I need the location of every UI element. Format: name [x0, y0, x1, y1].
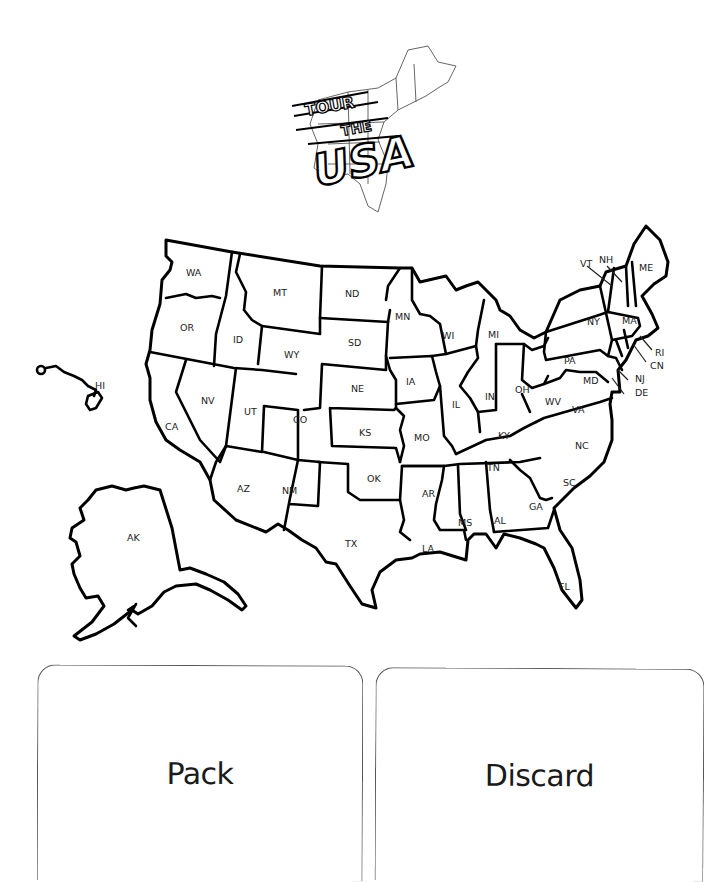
label-ut: UT	[244, 406, 257, 417]
label-la: LA	[422, 543, 435, 554]
label-ia: IA	[406, 376, 416, 387]
label-ar: AR	[422, 488, 435, 499]
label-il: IL	[452, 399, 461, 410]
logo-text-usa: USA	[313, 125, 415, 198]
label-mt: MT	[273, 287, 287, 298]
contiguous-us-outline	[146, 226, 668, 608]
tour-the-usa-logo: TOUR THE USA	[288, 44, 458, 216]
logo-text-tour: TOUR	[303, 93, 355, 120]
alaska	[70, 486, 246, 640]
hawaii	[37, 366, 102, 410]
label-mi: MI	[488, 329, 499, 340]
label-tx: TX	[344, 538, 358, 549]
label-or: OR	[180, 322, 194, 333]
label-md: MD	[583, 375, 599, 386]
pack-card-pile[interactable]: Pack	[37, 664, 364, 881]
label-mo: MO	[414, 432, 430, 443]
label-az: AZ	[237, 483, 250, 494]
label-tn: TN	[486, 462, 500, 473]
pack-card-label: Pack	[166, 756, 233, 791]
label-sd: SD	[348, 337, 361, 348]
label-ne: NE	[351, 383, 364, 394]
label-oh: OH	[515, 384, 530, 395]
label-ak: AK	[127, 532, 140, 543]
label-ca: CA	[165, 421, 179, 432]
label-mn: MN	[395, 311, 410, 322]
label-pa: PA	[564, 355, 576, 366]
discard-card-pile[interactable]: Discard	[374, 667, 704, 882]
label-co: CO	[293, 414, 307, 425]
discard-card-label: Discard	[485, 757, 594, 793]
label-ms: MS	[458, 517, 472, 528]
label-nv: NV	[201, 395, 215, 406]
label-id: ID	[233, 334, 243, 345]
label-hi: HI	[95, 380, 105, 391]
label-de: DE	[635, 387, 648, 398]
label-nj: NJ	[635, 373, 645, 384]
label-ri: RI	[655, 347, 664, 358]
label-nc: NC	[575, 440, 589, 451]
label-ks: KS	[359, 427, 371, 438]
usa-map: WA OR CA NV ID MT WY UT AZ CO NM ND SD N…	[0, 218, 726, 648]
label-ok: OK	[367, 473, 381, 484]
label-vt: VT	[580, 258, 592, 269]
label-ny: NY	[587, 316, 600, 327]
label-al: AL	[494, 515, 506, 526]
label-nd: ND	[345, 288, 359, 299]
label-va: VA	[572, 404, 585, 415]
label-wv: WV	[545, 396, 561, 407]
label-ma: MA	[622, 315, 637, 326]
label-wy: WY	[284, 349, 299, 360]
label-nm: NM	[282, 485, 297, 496]
label-in: IN	[485, 391, 495, 402]
label-wi: WI	[442, 330, 454, 341]
label-ky: KY	[498, 430, 510, 441]
label-cn: CN	[650, 360, 664, 371]
label-sc: SC	[563, 477, 576, 488]
label-me: ME	[639, 262, 653, 273]
label-nh: NH	[599, 254, 613, 265]
label-wa: WA	[186, 267, 202, 278]
label-fl: FL	[559, 581, 570, 592]
label-ga: GA	[529, 501, 543, 512]
